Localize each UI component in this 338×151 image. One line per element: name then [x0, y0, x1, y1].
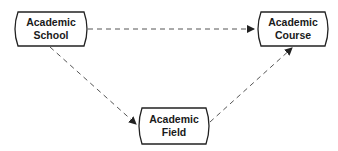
node-label: Course	[275, 29, 311, 41]
edge-field-to-course	[210, 48, 292, 122]
node-academic-course[interactable]: Academic Course	[258, 12, 328, 46]
node-label: School	[33, 29, 68, 41]
node-label: Academic	[268, 16, 318, 28]
node-label: Academic	[26, 16, 76, 28]
node-label: Field	[162, 126, 187, 138]
edge-school-to-field	[50, 47, 136, 124]
diagram-canvas: Academic School Academic Course Academic…	[0, 0, 338, 151]
node-label: Academic	[149, 113, 199, 125]
node-academic-field[interactable]: Academic Field	[139, 108, 209, 144]
node-academic-school[interactable]: Academic School	[15, 12, 87, 46]
